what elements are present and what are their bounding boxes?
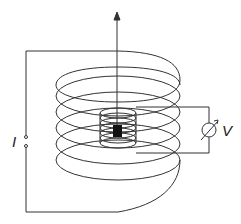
voltmeter-icon: [201, 120, 218, 140]
field-axis-arrow: [114, 12, 120, 128]
solenoid-diagram: [0, 0, 241, 224]
voltage-label: V: [222, 123, 232, 138]
current-label: I: [12, 134, 16, 149]
sample-block: [113, 125, 122, 137]
diagram-canvas: I V: [0, 0, 241, 224]
current-source-terminals: [25, 136, 28, 148]
